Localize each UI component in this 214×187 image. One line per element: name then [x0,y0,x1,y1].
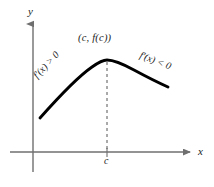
figure-container: y x c (c, f(c)) f′(x) > 0 f′(x) < 0 [0,0,214,187]
axis-label-y: y [28,6,33,17]
maximum-point-label: (c, f(c)) [78,33,111,44]
axis-label-x: x [198,146,203,157]
function-curve [40,60,168,118]
x-tick-label-c: c [104,156,108,166]
